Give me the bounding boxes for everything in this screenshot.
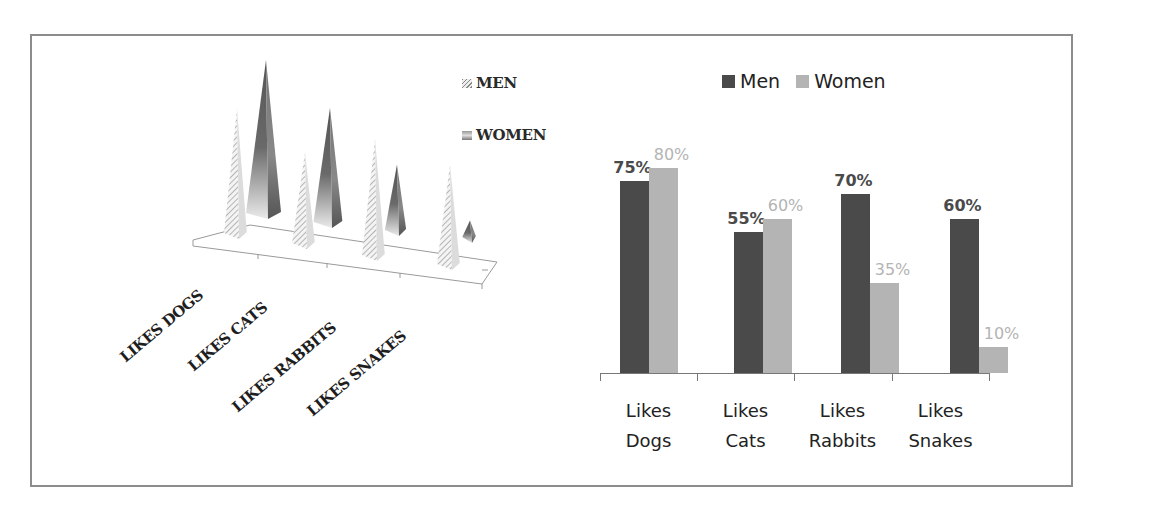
bar-men xyxy=(841,194,870,373)
value-label: 35% xyxy=(875,260,911,279)
bar-men xyxy=(950,219,979,373)
pyramid-men xyxy=(224,109,247,240)
x-label-line: Likes xyxy=(600,396,697,426)
x-label-line: Rabbits xyxy=(794,426,891,456)
value-label: 80% xyxy=(654,145,690,164)
bar-women xyxy=(870,283,899,373)
pyramid-legend: MEN WOMEN xyxy=(462,72,546,176)
x-category-label: Likes Rabbits xyxy=(794,396,891,456)
legend-item-women: Women xyxy=(796,70,886,92)
men-swatch-icon xyxy=(722,75,735,88)
value-label: 55% xyxy=(727,209,765,228)
legend-item-women: WOMEN xyxy=(462,124,546,146)
x-axis-tick xyxy=(989,373,990,381)
legend-label: WOMEN xyxy=(476,126,546,144)
pyramid-men xyxy=(292,153,315,250)
x-axis-tick xyxy=(794,373,795,381)
x-category-label: Likes Cats xyxy=(697,396,794,456)
legend-label: Men xyxy=(740,70,780,92)
gradient-swatch-icon xyxy=(462,131,472,140)
women-swatch-icon xyxy=(796,75,809,88)
legend-label: Women xyxy=(814,70,886,92)
hatched-swatch-icon xyxy=(462,79,472,88)
x-label-line: Likes xyxy=(794,396,891,426)
value-label: 10% xyxy=(984,324,1020,343)
x-label-line: Dogs xyxy=(600,426,697,456)
x-category-label: Likes Dogs xyxy=(600,396,697,456)
value-label: 60% xyxy=(943,196,981,215)
x-axis-tick xyxy=(600,373,601,381)
pyramid-series xyxy=(224,60,476,270)
value-label: 70% xyxy=(834,171,872,190)
pyramid-chart: MEN WOMEN LIKES DOGS LIKES CATS LIKES RA… xyxy=(0,0,580,515)
bar-men xyxy=(734,232,763,373)
x-label-line: Cats xyxy=(697,426,794,456)
bar-women xyxy=(979,347,1008,373)
bar-women xyxy=(763,219,792,373)
x-axis-tick xyxy=(697,373,698,381)
x-label-line: Snakes xyxy=(892,426,989,456)
x-axis xyxy=(600,373,990,374)
bar-legend: Men Women xyxy=(722,70,902,92)
legend-item-men: MEN xyxy=(462,72,546,94)
bar-women xyxy=(649,168,678,373)
x-label-line: Likes xyxy=(697,396,794,426)
pyramid-men xyxy=(362,139,385,261)
x-label-line: Likes xyxy=(892,396,989,426)
x-axis-tick xyxy=(892,373,893,381)
legend-label: MEN xyxy=(476,74,517,92)
pyramid-women xyxy=(462,221,476,244)
bar-men xyxy=(620,181,649,373)
legend-item-men: Men xyxy=(722,70,780,92)
pyramid-women xyxy=(246,60,281,219)
value-label: 60% xyxy=(768,196,804,215)
x-category-label: Likes Snakes xyxy=(892,396,989,456)
value-label: 75% xyxy=(613,158,651,177)
pyramid-women xyxy=(314,108,343,228)
pyramid-women xyxy=(385,165,406,236)
pyramid-men xyxy=(437,165,460,270)
